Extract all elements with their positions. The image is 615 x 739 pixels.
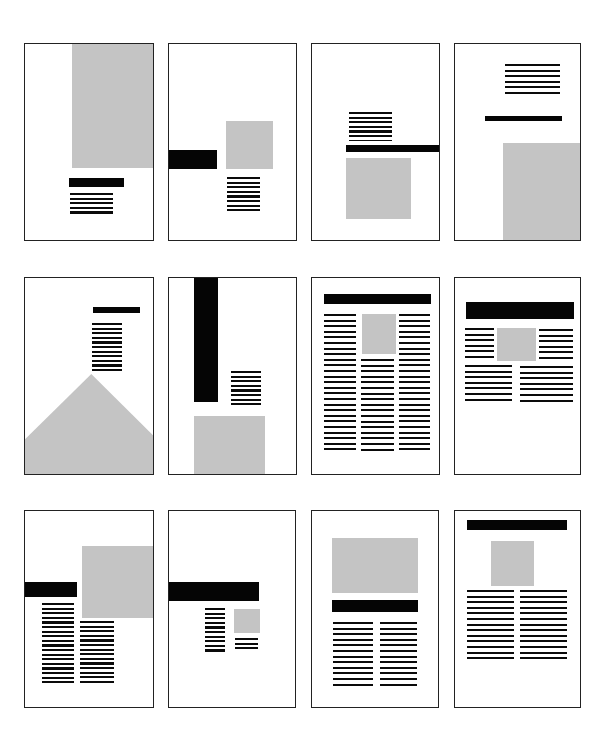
text-column-2 [361,359,394,453]
image-block [346,158,411,219]
text-block [505,64,560,97]
text-column-2 [380,622,417,686]
image-block [491,541,534,586]
headline-bar [346,145,440,152]
headline-bar [169,150,217,169]
text-block [92,323,122,371]
text-column-3 [399,314,430,453]
layout-11 [311,510,439,708]
layout-1 [24,43,154,241]
text-block [70,193,113,215]
layout-9 [24,510,154,708]
text-column-1-top [465,328,494,362]
image-block [82,546,154,618]
layout-3 [311,43,440,241]
headline-bar [467,520,567,530]
headline-bar [169,582,259,601]
caption-block [235,638,258,651]
headline-bar [466,302,574,319]
image-block [194,416,265,475]
image-block [226,121,273,169]
triangle-image-block [25,374,154,475]
image-block [234,609,260,633]
text-column-1 [42,603,74,685]
text-block [205,608,225,652]
text-block [349,112,392,141]
headline-bar [93,307,140,313]
headline-bar [332,600,418,612]
headline-bar [25,582,77,597]
layout-6 [168,277,297,475]
image-block [332,538,418,593]
image-block [497,328,536,361]
layout-8 [454,277,581,475]
text-column-1 [324,314,356,453]
headline-bar [324,294,431,304]
text-block [231,371,261,408]
layout-4 [454,43,581,241]
text-column-1 [467,590,514,659]
image-block [362,314,396,354]
headline-bar [485,116,562,121]
text-column-2-top [539,329,573,362]
vertical-headline-bar [194,278,218,402]
image-block [503,143,581,241]
text-column-1 [333,622,373,686]
image-block [72,44,154,168]
layout-2 [168,43,297,241]
layout-5 [24,277,154,475]
layout-10 [168,510,296,708]
headline-bar [69,178,124,187]
text-block [227,177,260,214]
layout-7 [311,277,440,475]
text-column-2 [520,590,567,659]
layout-12 [454,510,581,708]
text-column-2 [80,621,114,685]
text-column-2 [520,366,573,402]
text-column-1 [465,365,512,402]
